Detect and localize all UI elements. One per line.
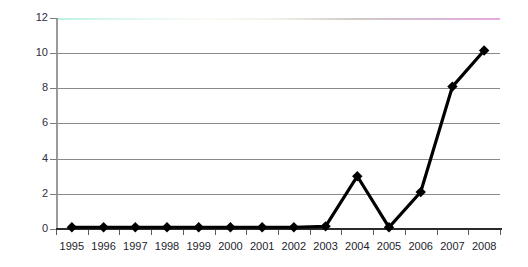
data-point-marker — [130, 222, 140, 232]
data-point-marker — [98, 222, 108, 232]
data-point-marker — [289, 222, 299, 232]
series-markers — [67, 45, 490, 232]
data-point-marker — [194, 222, 204, 232]
data-point-marker — [257, 222, 267, 232]
data-point-marker — [162, 222, 172, 232]
data-series-layer — [0, 0, 528, 267]
data-point-marker — [67, 222, 77, 232]
series-line — [72, 51, 484, 228]
data-point-marker — [225, 222, 235, 232]
line-chart: 12 10 8 6 4 2 0 199519961997199819992000… — [0, 0, 528, 267]
